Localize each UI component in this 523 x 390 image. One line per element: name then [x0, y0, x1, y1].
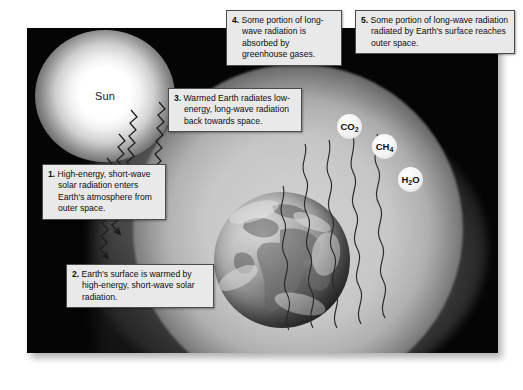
longwave-ray-group [281, 134, 386, 330]
gas-formula-ch4: CH4 [376, 141, 394, 153]
callout-5-text: Some portion of long-wave radiation radi… [371, 15, 509, 48]
callout-1-text: High-energy, short-wave solar radiation … [58, 169, 152, 213]
callout-2: 2. Earth's surface is warmed by high-ene… [66, 264, 214, 308]
gas-formula-h2o: H2O [401, 174, 419, 186]
callout-3-text: Warmed Earth radiates low-energy, long-w… [184, 93, 290, 126]
callout-5-number: 5. [361, 15, 368, 25]
callout-3: 3. Warmed Earth radiates low-energy, lon… [168, 88, 302, 132]
diagram-stage: Sun [0, 0, 523, 390]
callout-3-number: 3. [174, 93, 181, 103]
gas-badge-ch4: CH4 [372, 134, 397, 159]
callout-4-number: 4. [232, 15, 239, 25]
gas-badge-co2: CO2 [337, 114, 362, 139]
gas-badge-h2o: H2O [398, 167, 423, 192]
callout-2-text: Earth's surface is warmed by high-energy… [82, 269, 195, 302]
gas-formula-co2: CO2 [340, 121, 358, 133]
callout-4: 4. Some portion of long-wave radiation i… [226, 10, 342, 66]
callout-2-number: 2. [72, 269, 79, 279]
callout-4-text: Some portion of long-wave radiation is a… [242, 15, 324, 59]
callout-1: 1. High-energy, short-wave solar radiati… [42, 164, 166, 220]
callout-5: 5. Some portion of long-wave radiation r… [355, 10, 515, 54]
callout-1-number: 1. [48, 169, 55, 179]
